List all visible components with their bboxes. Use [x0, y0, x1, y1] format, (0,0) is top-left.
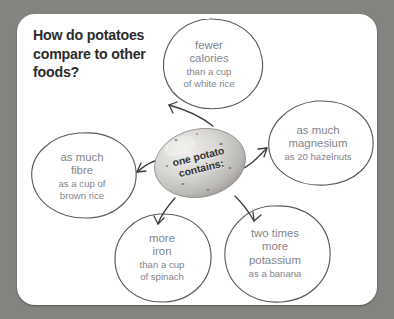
infographic-stage: How do potatoes compare to other foods? — [17, 14, 377, 305]
bubble-iron-headline-2: iron — [153, 245, 172, 258]
bubble-magnesium-headline-2: magnesium — [289, 137, 348, 150]
bubble-calories: fewer calories than a cup of white rice — [157, 18, 261, 110]
bubble-fibre-headline-2: fibre — [71, 164, 93, 177]
bubble-fibre-detail-2: brown rice — [60, 190, 104, 201]
bubble-fibre: as much fibre as a cup of brown rice — [29, 132, 135, 220]
bubble-potassium-headline-2: more — [262, 240, 288, 253]
bubble-iron-headline-1: more — [149, 232, 175, 245]
bubble-potassium-headline-1: two times — [251, 227, 299, 240]
bubble-calories-headline-1: fewer — [195, 39, 223, 52]
bubble-iron-detail-2: of spinach — [140, 271, 184, 282]
potato-illustration — [150, 122, 250, 204]
bubble-iron-detail-1: than a cup — [140, 259, 185, 270]
bubble-magnesium: as much magnesium as 20 hazelnuts — [261, 100, 375, 186]
bubble-fibre-detail-1: as a cup of — [59, 178, 106, 189]
infographic-card: How do potatoes compare to other foods? — [17, 14, 377, 305]
bubble-magnesium-headline-1: as much — [296, 124, 339, 137]
bubble-calories-detail-2: of white rice — [183, 78, 234, 89]
bubble-potassium-headline-3: potassium — [249, 254, 301, 267]
bubble-magnesium-detail-1: as 20 hazelnuts — [284, 151, 351, 162]
bubble-iron: more iron than a cup of spinach — [113, 212, 211, 302]
bubble-calories-detail-1: than a cup — [187, 66, 232, 77]
potato-image: one potato contains: — [150, 122, 250, 204]
bubble-fibre-headline-1: as much — [60, 151, 103, 164]
bubble-calories-headline-2: calories — [189, 52, 228, 65]
bubble-potassium-detail-1: as a banana — [249, 268, 302, 279]
arrow-head-fibre — [137, 163, 146, 172]
bubble-potassium: two times more potassium as a banana — [221, 204, 329, 302]
